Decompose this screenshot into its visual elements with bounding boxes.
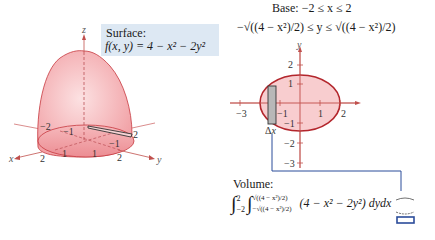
svg-text:1: 1 — [318, 108, 323, 119]
svg-text:1: 1 — [288, 78, 293, 89]
svg-text:−3: −3 — [236, 108, 247, 119]
outer-upper-limit: 2 — [236, 194, 240, 203]
svg-text:−2: −2 — [284, 138, 295, 149]
integrand: (4 − x² − 2y²) dy — [300, 196, 380, 210]
svg-text:2: 2 — [341, 108, 346, 119]
svg-text:2: 2 — [288, 59, 293, 70]
inner-upper-limit: √((4 − x²)/2) — [252, 194, 287, 202]
volume-label: Volume: — [233, 177, 273, 192]
plot2d-y-label: y — [296, 39, 302, 50]
svg-text:−3: −3 — [284, 158, 295, 169]
volume-integral: ∫2−2∫√((4 − x²)/2)−√((4 − x²)/2)(4 − x² … — [231, 192, 391, 215]
differential-dx: dx — [380, 196, 391, 210]
delta-x-label: Δx — [265, 125, 276, 136]
svg-text:−1: −1 — [284, 118, 295, 129]
outer-lower-limit: −2 — [236, 205, 245, 214]
inner-lower-limit: −√((4 − x²)/2) — [252, 205, 291, 213]
